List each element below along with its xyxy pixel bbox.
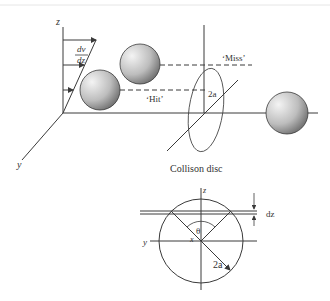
sphere-lower <box>80 70 120 110</box>
sphere-target <box>266 92 308 134</box>
y-axis <box>22 113 63 160</box>
section-y-label: y <box>142 237 147 247</box>
miss-label: ‘Miss’ <box>222 53 246 63</box>
radius-label: 2a <box>213 259 223 270</box>
section-z-label: z <box>202 186 207 195</box>
angle-label: θ <box>196 226 200 236</box>
radius-right <box>201 211 231 241</box>
shear-rate-denominator: dz <box>77 55 86 65</box>
disc-diameter-label: 2a <box>208 89 217 99</box>
strip-label: dz <box>266 209 275 219</box>
collision-diagram: z y dv dz ‘Miss’ ‘Hit’ 2a Collison disc <box>0 0 330 301</box>
y-axis-label: y <box>16 159 22 170</box>
section-x-label: x <box>189 235 194 244</box>
diagram-svg: z y dv dz ‘Miss’ ‘Hit’ 2a Collison disc <box>0 0 330 301</box>
disc-y-axis <box>167 80 238 151</box>
shear-rate-numerator: dv <box>77 44 86 54</box>
z-axis-label: z <box>55 16 60 27</box>
disc-caption: Collison disc <box>170 163 223 174</box>
collision-disc <box>183 66 228 154</box>
hit-label: ‘Hit’ <box>146 94 164 104</box>
sphere-upper <box>120 44 160 84</box>
disc-cross-section: z dz θ x y 2a <box>140 186 275 290</box>
shear-flow-view: z y dv dz ‘Miss’ ‘Hit’ 2a Collison disc <box>16 16 318 174</box>
